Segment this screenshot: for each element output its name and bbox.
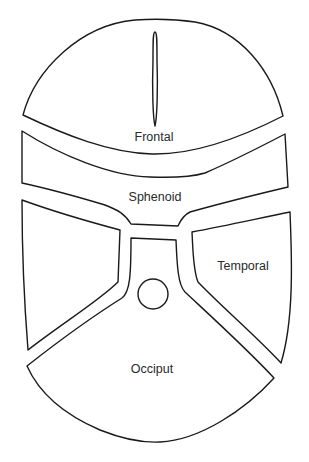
frontal-suture (153, 32, 158, 126)
occiput-label: Occiput (131, 362, 174, 376)
foramen-circle (138, 279, 168, 309)
temporal-label: Temporal (217, 259, 268, 273)
sphenoid-label: Sphenoid (129, 190, 182, 204)
frontal-label: Frontal (135, 130, 174, 144)
skull-bone-diagram: Frontal Sphenoid Temporal Occiput (0, 0, 309, 462)
